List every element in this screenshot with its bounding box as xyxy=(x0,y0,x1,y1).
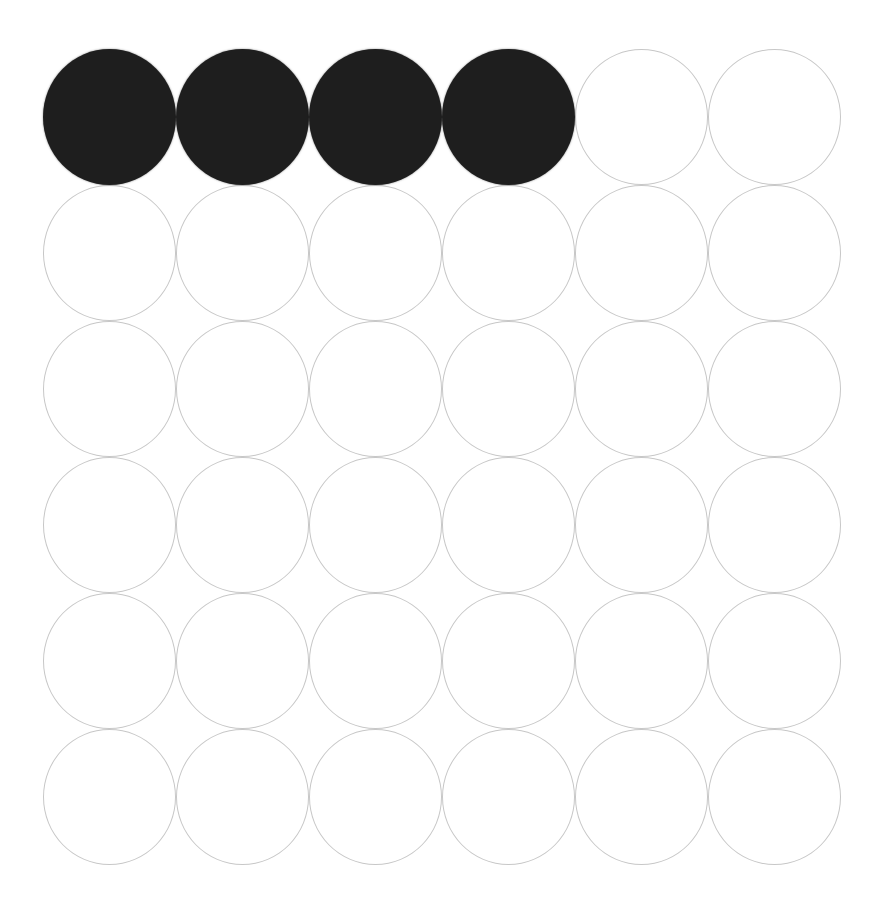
circle-r6-c4-empty xyxy=(442,729,575,865)
circle-r3-c6-empty xyxy=(708,321,841,457)
circle-r5-c1-empty xyxy=(43,593,176,729)
circle-r5-c3-empty xyxy=(309,593,442,729)
circle-r2-c5-empty xyxy=(575,185,708,321)
circle-r2-c2-empty xyxy=(176,185,309,321)
circle-r6-c3-empty xyxy=(309,729,442,865)
circle-r6-c2-empty xyxy=(176,729,309,865)
circle-r5-c4-empty xyxy=(442,593,575,729)
circle-r5-c2-empty xyxy=(176,593,309,729)
circle-r1-c2-filled xyxy=(176,49,309,185)
circle-grid xyxy=(43,49,841,865)
worksheet-page xyxy=(0,0,886,921)
circle-r6-c1-empty xyxy=(43,729,176,865)
circle-r2-c4-empty xyxy=(442,185,575,321)
circle-r4-c4-empty xyxy=(442,457,575,593)
circle-r4-c3-empty xyxy=(309,457,442,593)
circle-r4-c5-empty xyxy=(575,457,708,593)
circle-r6-c6-empty xyxy=(708,729,841,865)
circle-r1-c6-empty xyxy=(708,49,841,185)
circle-r2-c6-empty xyxy=(708,185,841,321)
circle-r1-c3-filled xyxy=(309,49,442,185)
circle-r4-c6-empty xyxy=(708,457,841,593)
circle-r4-c1-empty xyxy=(43,457,176,593)
circle-r2-c3-empty xyxy=(309,185,442,321)
circle-r1-c5-empty xyxy=(575,49,708,185)
circle-r3-c2-empty xyxy=(176,321,309,457)
circle-r5-c6-empty xyxy=(708,593,841,729)
circle-r2-c1-empty xyxy=(43,185,176,321)
circle-r6-c5-empty xyxy=(575,729,708,865)
circle-r5-c5-empty xyxy=(575,593,708,729)
circle-r3-c4-empty xyxy=(442,321,575,457)
circle-r3-c3-empty xyxy=(309,321,442,457)
circle-r1-c4-filled xyxy=(442,49,575,185)
circle-r3-c1-empty xyxy=(43,321,176,457)
circle-r1-c1-filled xyxy=(43,49,176,185)
circle-r3-c5-empty xyxy=(575,321,708,457)
circle-r4-c2-empty xyxy=(176,457,309,593)
